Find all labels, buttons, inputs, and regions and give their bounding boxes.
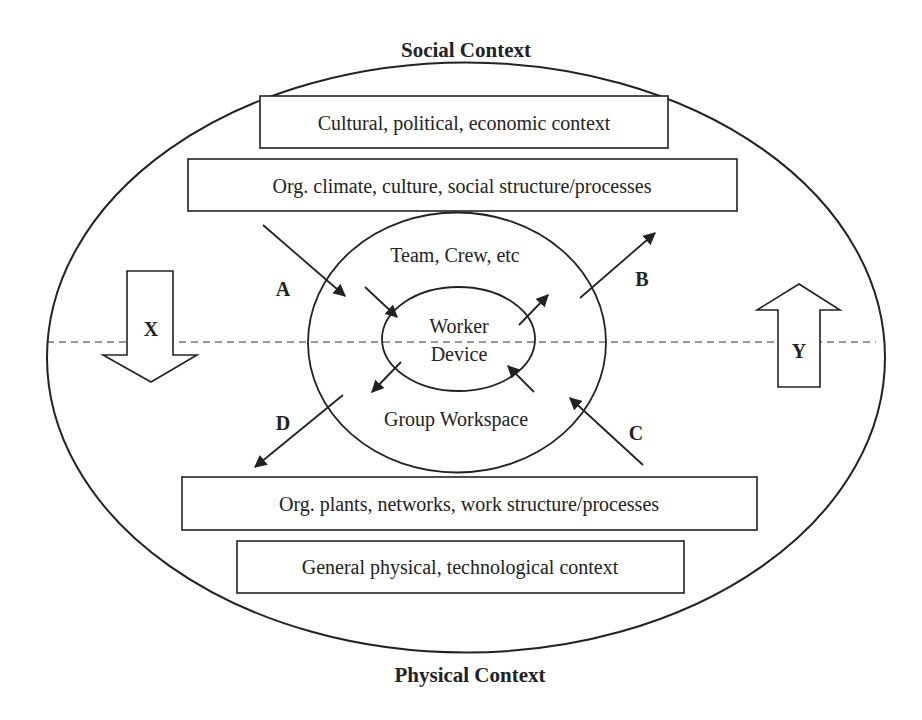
box-org-climate-label: Org. climate, culture, social structure/… [273, 175, 652, 198]
inner-arrow-out-left-icon [372, 362, 401, 392]
physical-context-label: Physical Context [394, 663, 545, 687]
worker-device-ellipse [382, 287, 535, 391]
box-org-plants-label: Org. plants, networks, work structure/pr… [279, 493, 659, 516]
inner-arrow-in-left-icon [365, 287, 397, 317]
block-arrow-y-icon: Y [757, 284, 840, 387]
arrow-a-label: A [276, 278, 291, 300]
block-arrow-y-label: Y [792, 340, 807, 362]
arrow-c-label: C [629, 422, 643, 444]
block-arrow-x-label: X [144, 318, 159, 340]
box-cultural-context-label: Cultural, political, economic context [318, 112, 611, 135]
box-org-climate: Org. climate, culture, social structure/… [188, 159, 737, 211]
arrow-d-label: D [276, 412, 290, 434]
device-label: Device [431, 343, 488, 365]
social-context-label: Social Context [401, 38, 531, 62]
arrow-d-icon [255, 395, 343, 467]
arrow-b-label: B [635, 268, 648, 290]
worker-label: Worker [429, 315, 489, 337]
team-crew-label: Team, Crew, etc [390, 244, 520, 266]
block-arrow-x-icon: X [103, 271, 197, 382]
box-general-physical-label: General physical, technological context [302, 556, 619, 579]
group-workspace-label: Group Workspace [384, 408, 528, 431]
context-diagram: Social Context Cultural, political, econ… [0, 0, 922, 720]
box-org-plants: Org. plants, networks, work structure/pr… [182, 477, 757, 530]
box-cultural-context: Cultural, political, economic context [260, 96, 668, 148]
box-general-physical: General physical, technological context [237, 541, 684, 593]
